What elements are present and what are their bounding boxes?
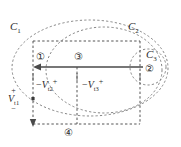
- source-label-vt1: + Vt1 −: [8, 88, 19, 112]
- circuit-mesh-figure: C1 C2 C3 ① ③ ② ④ −Vt2+ −Vt3+ + Vt1 −: [0, 0, 181, 147]
- source-arrow-head: [30, 119, 36, 127]
- node-label-2: ②: [145, 64, 154, 74]
- loop-label-c2: C2: [128, 21, 139, 35]
- voltage-label-vt3: −Vt3+: [82, 78, 103, 93]
- loop-label-c3: C3: [146, 49, 157, 63]
- voltage-label-vt2: −Vt2+: [36, 78, 57, 93]
- node-label-3: ③: [74, 52, 83, 62]
- source-minus-sign: −: [8, 106, 19, 112]
- branch-arrow-head: [33, 64, 41, 71]
- node-label-1: ①: [36, 52, 45, 62]
- source-terminal-dot: [31, 97, 34, 100]
- loop-label-c1: C1: [10, 21, 21, 35]
- node-label-4: ④: [64, 128, 73, 138]
